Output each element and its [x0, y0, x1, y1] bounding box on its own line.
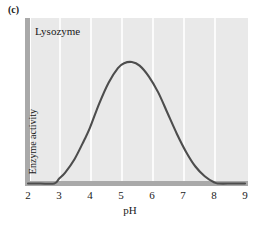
x-tick-label-6: 6 [142, 189, 162, 201]
x-tick-label-3: 3 [49, 189, 69, 201]
figure-panel-c: (c) Lysozyme Enzyme activity 23456789 pH [0, 0, 260, 226]
x-tick-label-7: 7 [173, 189, 193, 201]
x-axis-title: pH [0, 204, 260, 216]
y-axis-title: Enzyme activity [27, 82, 38, 202]
y-axis-title-container: Enzyme activity [12, 40, 26, 160]
lysozyme-activity-curve [28, 62, 245, 184]
x-tick-label-4: 4 [80, 189, 100, 201]
x-tick-label-2: 2 [18, 189, 38, 201]
x-tick-label-5: 5 [111, 189, 131, 201]
x-tick-label-9: 9 [235, 189, 255, 201]
x-tick-label-8: 8 [204, 189, 224, 201]
